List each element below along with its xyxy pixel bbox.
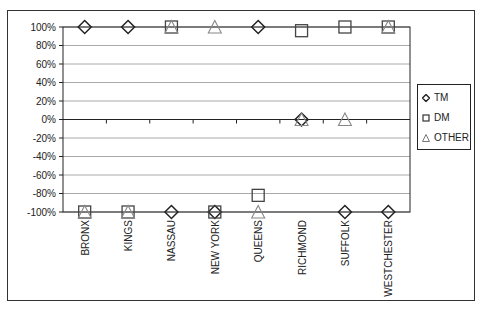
y-tick-label: 80% (36, 40, 56, 51)
y-tick-label: 60% (36, 59, 56, 70)
legend-item-tm: TM (422, 92, 448, 103)
y-tick-label: -40% (33, 151, 56, 162)
square-marker-icon (422, 114, 430, 122)
x-category-label: KINGS (123, 220, 134, 251)
dm-data-point (252, 189, 264, 201)
x-category-label: SUFFOLK (340, 220, 351, 266)
y-tick-label: 40% (36, 77, 56, 88)
x-category-label: NASSAU (166, 220, 177, 261)
legend-item-dm: DM (422, 112, 450, 123)
y-tick-label: -100% (27, 207, 56, 218)
x-category-label: BRONX (80, 220, 91, 256)
x-category-label: WESTCHESTER (383, 220, 394, 297)
y-tick-label: -60% (33, 170, 56, 181)
y-tick-label: -80% (33, 188, 56, 199)
diamond-marker-icon (422, 94, 430, 102)
y-tick-label: 0% (42, 114, 57, 125)
chart-legend: TM DM OTHER (417, 84, 471, 150)
y-tick-label: 20% (36, 96, 56, 107)
y-tick-label: 100% (30, 22, 56, 33)
chart-plot: 100%80%60%40%20%0%-20%-40%-60%-80%-100%B… (0, 0, 483, 309)
triangle-marker-icon (422, 134, 430, 142)
legend-item-other: OTHER (422, 132, 469, 143)
y-tick-label: -20% (33, 133, 56, 144)
x-category-label: RICHMOND (297, 220, 308, 275)
x-category-label: NEW YORK (210, 220, 221, 275)
x-category-label: QUEENS (253, 220, 264, 263)
